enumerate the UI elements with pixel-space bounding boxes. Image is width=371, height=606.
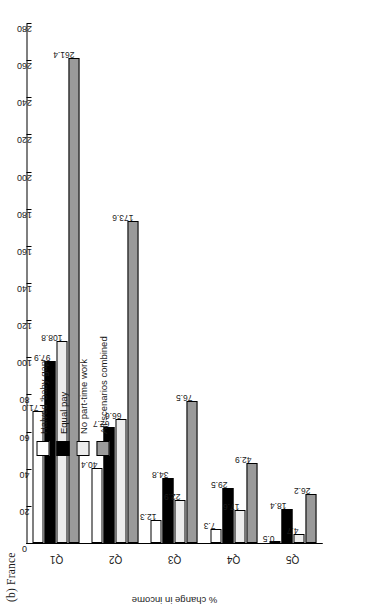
category-label-q4: Q4 (227, 554, 240, 565)
bar-groups: Q171.097.9108.8261.4Q240.462.766.6173.6Q… (26, 24, 322, 543)
bar-value-label: 17.6 (223, 502, 240, 512)
bar (115, 419, 126, 543)
bar-group: 7.329.517.642.9 (204, 23, 263, 543)
bar (210, 529, 221, 543)
bar-value-label: 18.4 (270, 501, 287, 511)
category-label-q3: Q3 (167, 554, 180, 565)
legend-item: Halved 'baby gap' (36, 336, 49, 456)
bar (91, 468, 102, 543)
legend-label: Equal pay (57, 392, 68, 434)
bar (234, 510, 245, 543)
legend-swatch-icon (36, 441, 49, 456)
y-axis-label: % change in income (131, 595, 217, 606)
bar (174, 500, 185, 543)
bar-value-label: 4.7 (287, 526, 299, 536)
bar (222, 488, 233, 543)
bar-group: 40.462.766.6173.6 (85, 23, 144, 543)
legend-item: All scenarios combined (96, 336, 109, 456)
bar (186, 401, 197, 543)
legend-label: No part-time work (77, 359, 88, 434)
bar-value-label: 42.9 (235, 455, 252, 465)
figure-canvas: (b) France % change in income 0204060801… (0, 0, 371, 606)
bar-value-label: 26.2 (294, 486, 311, 496)
page-title: (b) France (4, 552, 16, 602)
category-label-q5: Q5 (286, 554, 299, 565)
bar-value-label: 40.4 (80, 460, 97, 470)
category-label-q1: Q1 (49, 554, 62, 565)
bar-value-label: 12.3 (139, 512, 156, 522)
plot-area: % change in income 020406080100120140160… (26, 24, 322, 544)
bar (150, 520, 161, 543)
bar-value-label: 0.5 (263, 534, 275, 544)
legend-item: Equal pay (56, 336, 69, 456)
y-tick-label: 0 (21, 544, 26, 554)
bar-group: 71.097.9108.8261.4 (26, 23, 85, 543)
chart-figure: (b) France % change in income 0204060801… (0, 0, 371, 606)
y-axis-ticks: 020406080100120140160180200220240260280 (26, 543, 322, 544)
bar (68, 58, 79, 543)
bar-value-label: 34.8 (151, 470, 168, 480)
legend-label: Halved 'baby gap' (37, 359, 48, 434)
bar-value-label: 7.3 (203, 521, 215, 531)
bar (162, 478, 173, 543)
legend-item: No part-time work (76, 336, 89, 456)
bar-value-label: 22.9 (163, 492, 180, 502)
bar-value-label: 173.6 (112, 213, 133, 223)
bar-value-label: 71.0 (21, 403, 38, 413)
bar-value-label: 261.4 (52, 50, 73, 60)
legend-label: All scenarios combined (97, 336, 108, 434)
bar-group: 12.334.822.976.5 (144, 23, 203, 543)
legend-swatch-icon (76, 441, 89, 456)
legend-swatch-icon (96, 441, 109, 456)
bar (246, 463, 257, 543)
bar-value-label: 29.5 (211, 480, 228, 490)
bar-group: 0.518.44.726.2 (263, 23, 322, 543)
bar (127, 221, 138, 543)
legend-swatch-icon (56, 441, 69, 456)
bar (305, 494, 316, 543)
bar-value-label: 76.5 (175, 393, 192, 403)
category-label-q2: Q2 (108, 554, 121, 565)
chart-legend: Halved 'baby gap'Equal payNo part-time w… (36, 336, 109, 456)
